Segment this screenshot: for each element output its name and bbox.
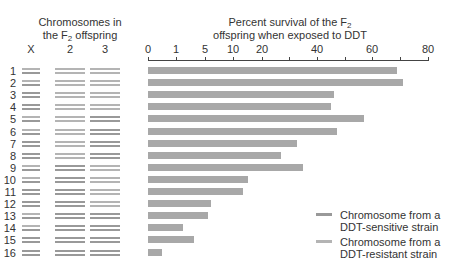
- chromosome-homolog: [90, 153, 120, 155]
- chromosome-homolog: [55, 141, 85, 143]
- chromosome-X-pair: [22, 104, 40, 110]
- chromosome-homolog: [22, 72, 40, 74]
- chromosome-homolog: [90, 116, 120, 118]
- chromosome-homolog: [55, 145, 85, 147]
- chromosome-3-pair: [90, 129, 120, 135]
- chromosome-homolog: [22, 141, 40, 143]
- chromosome-homolog: [90, 254, 120, 256]
- survival-bar-10: [148, 176, 248, 183]
- chromosome-2-pair: [55, 92, 85, 98]
- chromosome-homolog: [22, 120, 40, 122]
- chromosome-homolog: [22, 225, 40, 227]
- chromosome-homolog: [22, 189, 40, 191]
- chromosome-homolog: [55, 157, 85, 159]
- chromosome-X-pair: [22, 250, 40, 256]
- chromosome-homolog: [55, 129, 85, 131]
- chromosome-homolog: [90, 141, 120, 143]
- chromosome-homolog: [90, 201, 120, 203]
- chromosome-3-pair: [90, 68, 120, 74]
- chromosome-homolog: [55, 217, 85, 219]
- chromosome-homolog: [55, 254, 85, 256]
- chromosome-homolog: [55, 193, 85, 195]
- chromosome-3-pair: [90, 116, 120, 122]
- chromosome-2-pair: [55, 201, 85, 207]
- chromosome-homolog: [22, 181, 40, 183]
- chromosome-homolog: [90, 213, 120, 215]
- survival-bar-9: [148, 164, 303, 171]
- chromosome-homolog: [55, 104, 85, 106]
- x-tick-label: 0: [136, 43, 160, 55]
- chromosome-homolog: [55, 225, 85, 227]
- chromosome-title-line2: the F2 offspring: [20, 29, 140, 42]
- row-label: 11: [2, 186, 16, 198]
- chromosome-X-pair: [22, 213, 40, 219]
- row-label: 7: [2, 138, 16, 150]
- x-tick-label: 60: [360, 43, 384, 55]
- row-label: 3: [2, 89, 16, 101]
- chromosome-3-pair: [90, 250, 120, 256]
- chromosome-homolog: [55, 189, 85, 191]
- chromosome-homolog: [90, 181, 120, 183]
- x-tick: [148, 57, 149, 61]
- chromosome-homolog: [22, 201, 40, 203]
- chromosome-homolog: [55, 84, 85, 86]
- survival-bar-7: [148, 140, 297, 147]
- x-tick-label: 10: [221, 43, 245, 55]
- chromosome-homolog: [22, 157, 40, 159]
- row-label: 13: [2, 210, 16, 222]
- chromosome-homolog: [55, 229, 85, 231]
- chromosome-homolog: [90, 84, 120, 86]
- chromosome-homolog: [90, 250, 120, 252]
- chromosome-3-pair: [90, 189, 120, 195]
- chromosome-homolog: [22, 213, 40, 215]
- chromosome-homolog: [55, 169, 85, 171]
- chromosome-panel-title: Chromosomes in the F2 offspring: [20, 16, 140, 42]
- chromosome-homolog: [90, 241, 120, 243]
- chromosome-homolog: [55, 201, 85, 203]
- chromosome-homolog: [90, 80, 120, 82]
- chromosome-homolog: [90, 133, 120, 135]
- survival-bar-1: [148, 67, 397, 74]
- survival-bar-5: [148, 115, 364, 122]
- chromosome-3-pair: [90, 104, 120, 110]
- chromosome-X-pair: [22, 141, 40, 147]
- chromosome-homolog: [22, 108, 40, 110]
- row-label: 15: [2, 234, 16, 246]
- chromosome-X-pair: [22, 80, 40, 86]
- chromosome-X-pair: [22, 237, 40, 243]
- chromosome-homolog: [90, 108, 120, 110]
- row-label: 10: [2, 174, 16, 186]
- x-tick-label: 20: [250, 43, 274, 55]
- chromosome-2-pair: [55, 104, 85, 110]
- row-label: 9: [2, 162, 16, 174]
- survival-bar-2: [148, 79, 403, 86]
- chromosome-2-pair: [55, 153, 85, 159]
- chromosome-3-pair: [90, 153, 120, 159]
- chromosome-homolog: [90, 165, 120, 167]
- chromosome-2-pair: [55, 80, 85, 86]
- chromosome-homolog: [55, 92, 85, 94]
- chart-title-line2: offspring when exposed to DDT: [200, 29, 380, 42]
- chromosome-X-pair: [22, 165, 40, 171]
- chromosome-homolog: [22, 129, 40, 131]
- chromosome-homolog: [55, 72, 85, 74]
- chromosome-homolog: [22, 165, 40, 167]
- x-tick-label: 1: [164, 43, 188, 55]
- chromosome-2-pair: [55, 165, 85, 171]
- chromosome-homolog: [22, 177, 40, 179]
- x-tick: [372, 57, 373, 61]
- x-tick: [205, 57, 206, 61]
- chromosome-homolog: [55, 153, 85, 155]
- chromosome-homolog: [55, 181, 85, 183]
- row-label: 1: [2, 65, 16, 77]
- survival-bar-14: [148, 224, 183, 231]
- chromosome-2-pair: [55, 129, 85, 135]
- chromosome-3-pair: [90, 177, 120, 183]
- legend-label-line2: DDT-sensitive strain: [340, 221, 438, 233]
- chromosome-homolog: [22, 104, 40, 106]
- chromosome-homolog: [90, 92, 120, 94]
- chromosome-homolog: [55, 237, 85, 239]
- chromosome-2-pair: [55, 225, 85, 231]
- chromosome-2-pair: [55, 213, 85, 219]
- survival-bar-6: [148, 128, 337, 135]
